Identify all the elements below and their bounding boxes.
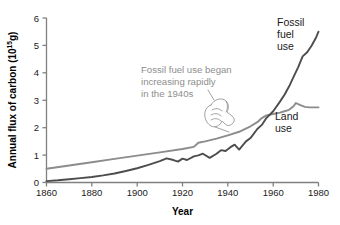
- series-label-land-use: Land use: [275, 110, 299, 134]
- x-axis-ticks: 1860 1880 1900 1920 1940 1960 1980: [36, 183, 329, 199]
- pointing-hand-icon: [205, 90, 235, 132]
- x-tick-label-1900: 1900: [127, 187, 148, 198]
- x-tick-label-1940: 1940: [217, 187, 238, 198]
- series-label-fossil-line-2: fuel: [277, 28, 294, 40]
- chart-figure: 0 1 2 3 4 5 6 1860 1880 1900 1920 1940 1…: [0, 0, 340, 225]
- y-tick-label-1: 1: [34, 150, 39, 161]
- series-label-fossil-fuel-use: Fossil fuel use: [277, 16, 304, 52]
- y-axis-title-tail: g): [7, 32, 18, 41]
- x-axis-title: Year: [172, 206, 193, 217]
- x-tick-label-1880: 1880: [81, 187, 102, 198]
- y-tick-label-6: 6: [34, 13, 39, 24]
- annotation-leader-line: [208, 90, 214, 100]
- x-tick-label-1920: 1920: [172, 187, 193, 198]
- y-axis-title-main: Annual flux of carbon (10: [7, 48, 18, 168]
- annotation-fossil-fuel-rapid-increase: Fossil fuel use began increasing rapidly…: [141, 64, 234, 132]
- annotation-line-1: Fossil fuel use began: [141, 64, 232, 75]
- series-label-fossil-line-3: use: [277, 40, 294, 52]
- y-tick-label-2: 2: [34, 122, 39, 133]
- annotation-line-2: increasing rapidly: [141, 76, 216, 87]
- y-tick-label-3: 3: [34, 95, 39, 106]
- x-tick-label-1860: 1860: [36, 187, 57, 198]
- carbon-flux-line-chart: 0 1 2 3 4 5 6 1860 1880 1900 1920 1940 1…: [0, 0, 340, 225]
- x-tick-label-1960: 1960: [263, 187, 284, 198]
- y-axis-ticks: 0 1 2 3 4 5 6: [34, 13, 47, 189]
- y-axis-title: Annual flux of carbon (1015g): [6, 32, 18, 169]
- x-tick-label-1980: 1980: [308, 187, 329, 198]
- series-label-land-line-2: use: [275, 122, 292, 134]
- series-line-fossil-fuel-use: [47, 32, 319, 181]
- series-group: [47, 32, 319, 181]
- y-tick-label-5: 5: [34, 40, 39, 51]
- series-label-land-line-1: Land: [275, 110, 299, 122]
- series-label-fossil-line-1: Fossil: [277, 16, 304, 28]
- y-tick-label-4: 4: [34, 67, 39, 78]
- annotation-line-3: in the 1940s: [141, 88, 193, 99]
